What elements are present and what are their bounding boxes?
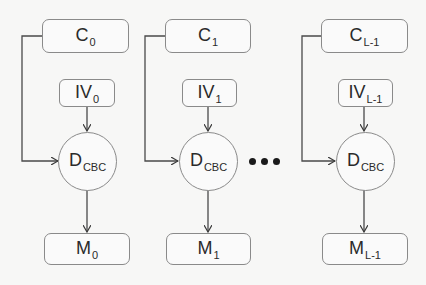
iv-label-0: IV0 [75,82,99,105]
ciphertext-to-decrypt-arrow-0 [22,36,58,161]
ellipsis-dot-2 [261,158,268,165]
iv-block-last: IVL-1 [338,79,393,107]
decrypt-node-last: DCBC [336,132,395,191]
ciphertext-block-last: CL-1 [321,19,408,53]
ellipsis-dot-3 [273,158,280,165]
message-block-last: ML-1 [322,233,408,265]
ciphertext-label-last: CL-1 [350,25,380,48]
ciphertext-block-1: C1 [165,19,251,53]
ellipsis-dot-1 [249,158,256,165]
ciphertext-block-0: C0 [42,19,129,53]
iv-label-last: IVL-1 [349,82,383,105]
message-label-0: M0 [76,238,98,261]
decrypt-label-0: DCBC [69,150,106,173]
iv-label-1: IV1 [197,82,221,105]
ciphertext-label-0: C0 [75,25,95,48]
message-label-last: ML-1 [349,238,381,261]
decrypt-node-1: DCBC [179,132,238,191]
iv-block-0: IV0 [59,79,115,107]
decrypt-node-0: DCBC [58,132,117,191]
iv-block-1: IV1 [182,79,237,107]
ciphertext-to-decrypt-arrow-1 [145,36,178,161]
decrypt-label-1: DCBC [190,150,227,173]
decrypt-label-last: DCBC [347,150,384,173]
message-block-0: M0 [44,233,130,265]
message-block-1: M1 [166,233,251,265]
message-label-1: M1 [197,238,219,261]
ciphertext-label-1: C1 [198,25,218,48]
ciphertext-to-decrypt-arrow-2 [302,36,335,161]
